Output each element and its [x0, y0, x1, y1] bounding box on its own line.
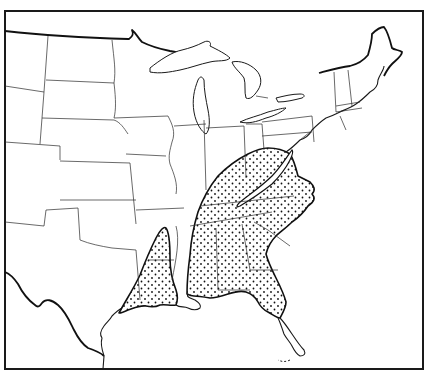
canada-border: [5, 30, 182, 54]
canada-border-east: [319, 27, 402, 76]
lake-ontario: [276, 94, 304, 102]
map-svg: [0, 0, 426, 374]
mexico-border: [5, 272, 104, 356]
florida-keys: [278, 360, 290, 362]
range-southeastern: [187, 148, 314, 318]
range-map: [0, 0, 426, 374]
state-borders: [5, 36, 362, 300]
lake-huron: [232, 61, 261, 98]
range-western-gulf: [119, 227, 178, 313]
florida-coast: [278, 318, 305, 356]
mexico-gulf-coast: [103, 356, 104, 369]
lake-michigan: [193, 77, 209, 134]
lake-superior: [150, 41, 230, 73]
lake-erie: [240, 108, 286, 123]
